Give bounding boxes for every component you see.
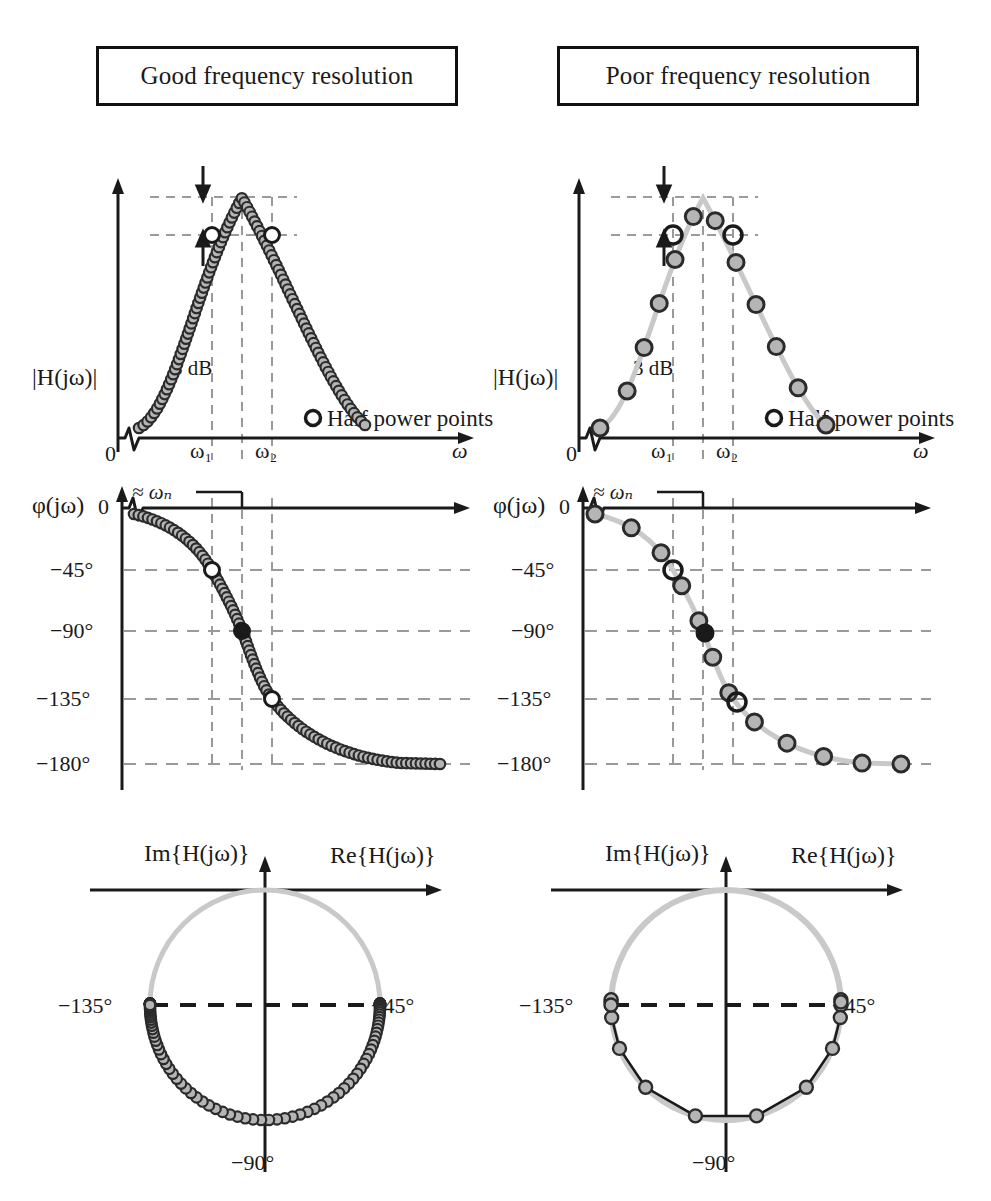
phase-plot-good: φ(jω) 0 −45° −90° −135° −180° ≈ ωₙ — [0, 470, 500, 800]
phase-svg-right — [461, 470, 961, 800]
three-db-arrows-right — [658, 166, 670, 266]
sample-marker — [435, 759, 445, 769]
title-box-poor: Poor frequency resolution — [557, 46, 919, 106]
magnitude-samples-right — [592, 209, 834, 436]
sample-marker — [707, 213, 723, 229]
sample-marker — [639, 1081, 652, 1094]
sample-marker — [360, 420, 370, 430]
phase-curve-left — [134, 514, 440, 764]
sample-marker — [623, 520, 639, 536]
magnitude-axes-right — [573, 178, 935, 452]
sample-marker — [750, 1109, 763, 1122]
sample-marker — [636, 340, 652, 356]
nyquist-plot-poor: Im{H(jω)} Re{H(jω)} −135° −45° −90° — [461, 820, 961, 1201]
magnitude-plot-good: |H(jω)| 3 dB Half power points 0 ω₁ ω₂ ω — [0, 160, 500, 470]
sample-marker — [816, 748, 832, 764]
phase-half-power-marker-left-2 — [265, 692, 280, 707]
sample-marker — [768, 339, 784, 355]
sample-marker — [800, 1081, 813, 1094]
nyquist-axes-right — [551, 856, 903, 1172]
nyquist-svg-left — [0, 820, 500, 1201]
magnitude-svg-left — [0, 160, 500, 470]
sample-marker — [685, 209, 701, 225]
title-good-label: Good frequency resolution — [141, 62, 414, 90]
sample-marker — [705, 649, 721, 665]
phase-half-power-marker-left-1 — [205, 563, 220, 578]
magnitude-svg-right — [461, 160, 961, 470]
approx-wn-bracket-left — [196, 492, 242, 508]
sample-marker — [818, 417, 834, 433]
nyquist-plot-good: Im{H(jω)} Re{H(jω)} −135° −45° −90° — [0, 820, 500, 1201]
phase-natural-frequency-marker-right — [697, 625, 713, 641]
phase-svg-left — [0, 470, 500, 800]
sample-marker — [619, 383, 635, 399]
sample-marker — [779, 735, 795, 751]
sample-marker — [613, 1042, 626, 1055]
magnitude-plot-poor: |H(jω)| 3 dB Half power points 0 ω₁ ω₂ ω — [461, 160, 961, 470]
sample-marker — [653, 545, 669, 561]
magnitude-samples-left — [134, 193, 370, 433]
magnitude-axes-left — [112, 178, 474, 452]
half-power-marker-left-1 — [205, 228, 220, 243]
sample-marker — [748, 297, 764, 313]
phase-gridlines-left — [124, 570, 470, 764]
sample-marker — [834, 995, 847, 1008]
sample-marker — [689, 1109, 702, 1122]
sample-marker — [826, 1042, 839, 1055]
phase-gridlines-right — [585, 570, 931, 764]
sample-marker — [145, 1000, 155, 1010]
title-box-good: Good frequency resolution — [96, 46, 458, 106]
phase-samples-left — [129, 509, 445, 769]
sample-marker — [893, 756, 909, 772]
sample-marker — [651, 295, 667, 311]
half-power-marker-left-2 — [265, 228, 280, 243]
sample-marker — [667, 251, 683, 267]
sample-marker — [728, 254, 744, 270]
sample-marker — [746, 714, 762, 730]
three-db-arrows-left — [197, 166, 209, 266]
nyquist-svg-right — [461, 820, 961, 1201]
sample-marker — [790, 380, 806, 396]
legend-marker-right — [767, 411, 782, 426]
sample-marker — [587, 506, 603, 522]
sample-marker — [854, 755, 870, 771]
sample-marker — [834, 1011, 847, 1024]
phase-natural-frequency-marker-left — [235, 624, 250, 639]
title-poor-label: Poor frequency resolution — [606, 62, 871, 90]
sample-marker — [605, 1011, 618, 1024]
legend-marker-left — [306, 411, 321, 426]
magnitude-curve-left — [139, 198, 365, 428]
approx-wn-bracket-right — [657, 492, 703, 508]
sample-marker — [592, 420, 608, 436]
phase-plot-poor: φ(jω) 0 −45° −90° −135° −180° ≈ ωₙ — [461, 470, 961, 800]
sample-marker — [605, 999, 618, 1012]
phase-samples-right — [587, 506, 909, 772]
